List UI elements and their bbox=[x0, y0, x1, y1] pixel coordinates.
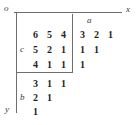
cell-b-r0-c1: 1 bbox=[45, 79, 54, 89]
math-figure: o x y a c b 6 5 4 5 2 1 4 1 1 3 2 1 1 1 … bbox=[0, 0, 137, 125]
cell-a-r1-c1: 1 bbox=[92, 45, 101, 55]
inner-horizontal-divider bbox=[16, 72, 73, 73]
x-axis-line bbox=[14, 12, 122, 13]
cell-c-r1-c2: 1 bbox=[59, 45, 68, 55]
y-axis-label: y bbox=[5, 105, 9, 114]
cell-c-r2-c0: 4 bbox=[31, 60, 40, 70]
cell-b-r0-c2: 1 bbox=[59, 79, 68, 89]
cell-c-r0-c2: 4 bbox=[59, 30, 68, 40]
y-axis-line bbox=[16, 12, 17, 113]
origin-label: o bbox=[4, 4, 9, 13]
cell-c-r1-c1: 2 bbox=[45, 45, 54, 55]
cell-a-r2-c0: 1 bbox=[78, 60, 87, 70]
inner-vertical-divider bbox=[72, 14, 73, 72]
cell-a-r0-c0: 3 bbox=[78, 30, 87, 40]
cell-b-r0-c0: 3 bbox=[31, 79, 40, 89]
block-label-b: b bbox=[20, 93, 25, 102]
cell-c-r2-c1: 1 bbox=[45, 60, 54, 70]
block-label-a: a bbox=[87, 16, 92, 25]
block-label-c: c bbox=[20, 45, 24, 54]
cell-a-r1-c0: 1 bbox=[78, 45, 87, 55]
cell-c-r2-c2: 1 bbox=[59, 60, 68, 70]
x-axis-label: x bbox=[126, 5, 130, 14]
cell-c-r0-c1: 5 bbox=[45, 30, 54, 40]
cell-a-r0-c1: 2 bbox=[92, 30, 101, 40]
cell-c-r1-c0: 5 bbox=[31, 45, 40, 55]
cell-b-r1-c1: 1 bbox=[45, 93, 54, 103]
cell-b-r1-c0: 2 bbox=[31, 93, 40, 103]
cell-b-r2-c0: 1 bbox=[31, 107, 40, 117]
cell-a-r0-c2: 1 bbox=[106, 30, 115, 40]
cell-c-r0-c0: 6 bbox=[31, 30, 40, 40]
